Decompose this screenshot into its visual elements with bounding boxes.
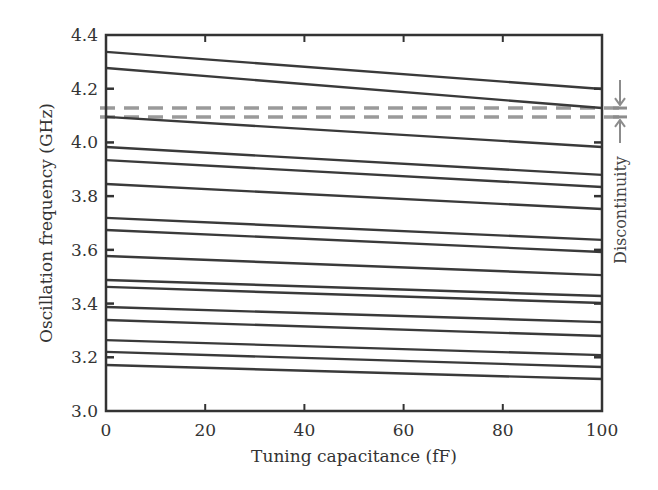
y-tick-label: 3.2 — [71, 347, 98, 367]
y-tick-label: 4.2 — [71, 79, 98, 99]
series-line-band-7 — [106, 218, 602, 240]
series-line-band-8 — [106, 230, 602, 252]
y-tick-label: 3.8 — [71, 186, 98, 206]
series-line-band-13 — [106, 320, 602, 336]
series-line-band-16 — [106, 365, 602, 379]
x-tick-label: 40 — [294, 420, 316, 440]
series-lines — [106, 52, 602, 379]
x-tick-labels: 020406080100 — [101, 420, 619, 440]
chart: 020406080100 3.03.23.43.63.84.04.24.4 Tu… — [0, 0, 658, 490]
x-tick-label: 80 — [492, 420, 514, 440]
x-tick-label: 100 — [586, 420, 618, 440]
x-tick-label: 60 — [393, 420, 415, 440]
series-line-band-15 — [106, 352, 602, 367]
discontinuity-label: Discontinuity — [611, 156, 630, 264]
x-tick-label: 0 — [101, 420, 112, 440]
y-tick-label: 3.6 — [71, 240, 98, 260]
x-axis-title: Tuning capacitance (fF) — [251, 446, 457, 466]
series-line-band-10 — [106, 280, 602, 296]
series-line-band-6 — [106, 184, 602, 209]
y-tick-label: 3.4 — [71, 294, 98, 314]
y-tick-label: 4.4 — [71, 25, 98, 45]
y-tick-labels: 3.03.23.43.63.84.04.24.4 — [71, 25, 98, 421]
y-tick-label: 4.0 — [71, 132, 98, 152]
series-line-band-1 — [106, 52, 602, 89]
discontinuity-reference-lines — [100, 108, 624, 117]
discontinuity-annotation: Discontinuity — [611, 80, 630, 264]
series-line-band-9 — [106, 256, 602, 275]
series-line-band-14 — [106, 340, 602, 355]
series-line-band-5 — [106, 160, 602, 187]
y-tick-label: 3.0 — [71, 401, 98, 421]
series-line-band-11 — [106, 287, 602, 303]
series-line-band-12 — [106, 307, 602, 322]
series-line-band-3 — [106, 117, 602, 147]
y-axis-title: Oscillation frequency (GHz) — [36, 103, 56, 343]
series-line-band-2 — [106, 68, 602, 108]
x-tick-label: 20 — [194, 420, 216, 440]
series-line-band-4 — [106, 147, 602, 175]
